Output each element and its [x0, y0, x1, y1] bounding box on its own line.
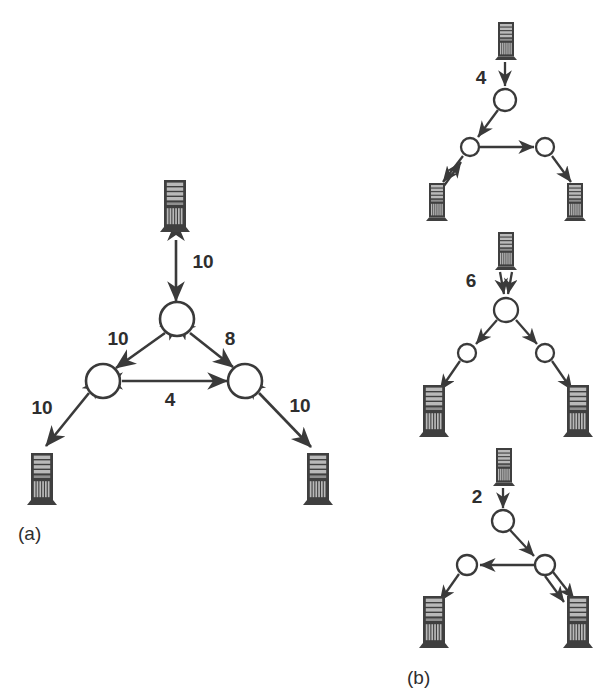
b1-tree-cost-label: 4	[476, 67, 487, 88]
b2-link-root-left	[476, 320, 497, 344]
b2-server-source[interactable]	[495, 232, 517, 270]
router-node-right[interactable]	[228, 364, 262, 398]
b3-router-left[interactable]	[457, 555, 477, 575]
b2-link-source-root-a	[500, 272, 504, 294]
edge-weight-top-left: 10	[107, 328, 128, 349]
b2-router-right[interactable]	[536, 344, 554, 362]
router-node-top[interactable]	[160, 302, 194, 336]
edge-weight-left-server: 10	[31, 397, 52, 418]
b1-link-mid-leafleft-down	[443, 156, 463, 182]
b1-server-leaf-right[interactable]	[564, 183, 586, 221]
b1-router-mid[interactable]	[461, 138, 479, 156]
b2-link-source-root-b	[508, 272, 512, 294]
server-icon-right[interactable]	[303, 453, 333, 505]
panel-label-b: (b)	[407, 667, 430, 688]
b1-router-right[interactable]	[536, 138, 554, 156]
b1-link-right-leafright	[552, 156, 571, 182]
b2-tree-cost-label: 6	[466, 270, 477, 291]
edge-weight-right-server: 10	[289, 395, 310, 416]
b3-link-right-leafright-a	[545, 576, 564, 602]
panel-a-group: 10 10 8 4 10 10 (a)	[18, 180, 333, 544]
b3-router-root[interactable]	[492, 510, 514, 532]
b2-router-left[interactable]	[458, 344, 476, 362]
router-node-left[interactable]	[86, 364, 120, 398]
edge-weight-left-right: 4	[165, 389, 176, 410]
panel-b-tree-6-group: 6	[419, 232, 593, 437]
edge-weight-top-server: 10	[192, 251, 213, 272]
diagram-canvas: 10 10 8 4 10 10 (a)	[0, 0, 607, 698]
b2-router-root[interactable]	[494, 298, 518, 322]
b3-link-right-leafright-b	[553, 572, 574, 599]
b2-server-leaf-left[interactable]	[419, 385, 449, 437]
b3-server-leaf-right[interactable]	[563, 596, 593, 648]
b3-link-root-right	[510, 530, 534, 556]
panel-b-tree-4-group: 4	[426, 22, 586, 221]
server-icon-top[interactable]	[160, 180, 190, 232]
panel-label-a: (a)	[18, 523, 41, 544]
b1-server-source[interactable]	[495, 22, 517, 60]
b3-server-source[interactable]	[493, 448, 515, 486]
b2-server-leaf-right[interactable]	[563, 385, 593, 437]
b2-link-root-right	[516, 320, 537, 344]
b3-router-right[interactable]	[535, 555, 555, 575]
b1-router-root[interactable]	[494, 89, 516, 111]
b3-server-leaf-left[interactable]	[419, 596, 449, 648]
server-icon-left[interactable]	[27, 453, 57, 505]
b3-tree-cost-label: 2	[472, 486, 483, 507]
panel-b-tree-2-group: 2 (b)	[407, 448, 593, 688]
network-figure: 10 10 8 4 10 10 (a)	[0, 0, 607, 698]
edge-weight-top-right: 8	[225, 328, 236, 349]
b1-server-leaf-left[interactable]	[426, 183, 448, 221]
b1-link-root-mid	[478, 110, 498, 137]
